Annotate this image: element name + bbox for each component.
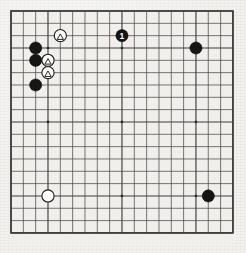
- black-stone[interactable]: [30, 79, 42, 91]
- stone-black[interactable]: [30, 79, 42, 91]
- stone-white[interactable]: [54, 30, 66, 42]
- white-stone[interactable]: [42, 67, 54, 79]
- black-stone[interactable]: [30, 54, 42, 66]
- go-board[interactable]: 1: [0, 0, 246, 253]
- go-diagram-page: 1: [0, 0, 246, 253]
- stone-black[interactable]: [30, 54, 42, 66]
- white-stone[interactable]: [54, 30, 66, 42]
- star-point: [121, 47, 124, 50]
- black-stone[interactable]: [202, 190, 214, 202]
- stone-white[interactable]: [42, 67, 54, 79]
- black-stone[interactable]: [30, 42, 42, 54]
- stone-white[interactable]: [42, 54, 54, 66]
- white-stone[interactable]: [42, 190, 54, 202]
- star-point: [47, 121, 50, 124]
- star-point: [121, 121, 124, 124]
- star-point: [121, 195, 124, 198]
- stone-black-move-1[interactable]: 1: [116, 30, 128, 42]
- white-stone[interactable]: [42, 54, 54, 66]
- stone-black[interactable]: [190, 42, 202, 54]
- star-point: [195, 195, 198, 198]
- black-stone[interactable]: [190, 42, 202, 54]
- go-board-canvas[interactable]: 1: [0, 0, 246, 253]
- star-point: [47, 47, 50, 50]
- stone-move-number: 1: [120, 31, 125, 41]
- star-point: [195, 121, 198, 124]
- stone-black[interactable]: [202, 190, 214, 202]
- stone-black[interactable]: [30, 42, 42, 54]
- stone-white[interactable]: [42, 190, 54, 202]
